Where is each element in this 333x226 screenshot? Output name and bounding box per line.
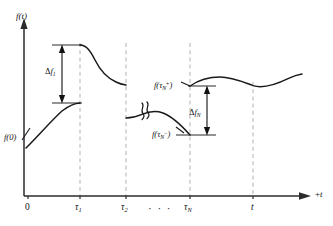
tick-label-t: t: [251, 203, 254, 213]
tick-label-tau-N-sub: N: [187, 206, 191, 213]
delta-f1-arrowhead-up: [59, 45, 65, 54]
label-f-tau-N-plus: f(τN+): [154, 81, 172, 91]
plot-canvas: [0, 0, 333, 226]
axis-break-squiggle-icon: [142, 102, 149, 120]
label-f-tau-N-minus-close: ): [167, 129, 170, 139]
delta-f1-arrowhead-down: [59, 95, 65, 104]
label-f-tau-N-minus: f(τN−): [152, 130, 170, 140]
x-axis-label: +t: [315, 190, 323, 199]
label-delta-f-N-sub: N: [197, 112, 201, 118]
label-delta-f-1-sub: 1: [53, 71, 56, 77]
squiggle-stroke-right: [147, 102, 149, 119]
leader-f-tauN-plus: [181, 82, 190, 86]
x-axis-arrowhead: [299, 192, 311, 200]
tick-label-ellipsis: · · ·: [148, 203, 172, 214]
curve-segment-tauN-to-end: [190, 74, 302, 87]
label-delta-f-N: ΔfN: [189, 108, 201, 118]
leader-f-zero: [22, 128, 30, 140]
dashed-guide-lines: [80, 43, 253, 196]
tick-label-tau-1-sub: 1: [78, 206, 81, 213]
tick-label-tau-N: τN: [184, 203, 192, 213]
label-delta-f-1: Δf1: [45, 67, 56, 77]
tick-label-origin: 0: [25, 203, 30, 213]
tick-label-tau-2: τ2: [121, 203, 128, 213]
curve-segment-0-to-tau1: [26, 103, 80, 148]
tick-label-tau-1: τ1: [75, 203, 82, 213]
tick-label-tau-2-sub: 2: [124, 206, 127, 213]
curve-segment-tau1-to-tau2: [80, 45, 126, 85]
axes-group: [24, 27, 300, 196]
squiggle-stroke-left: [142, 103, 144, 120]
label-f-tau-N-plus-close: ): [169, 80, 172, 90]
delta-fN-arrowhead-up: [204, 86, 210, 95]
y-axis-label: f(t): [16, 12, 27, 21]
delta-fN-arrowhead-down: [204, 127, 210, 136]
figure-container: f(t) +t 0 τ1 τ2 · · · τN t f(0) f(τN−) f…: [0, 0, 333, 226]
x-axis-label-var: t: [320, 189, 323, 199]
delta-f1-annotation: [52, 45, 82, 103]
label-f-zero: f(0): [4, 133, 16, 142]
